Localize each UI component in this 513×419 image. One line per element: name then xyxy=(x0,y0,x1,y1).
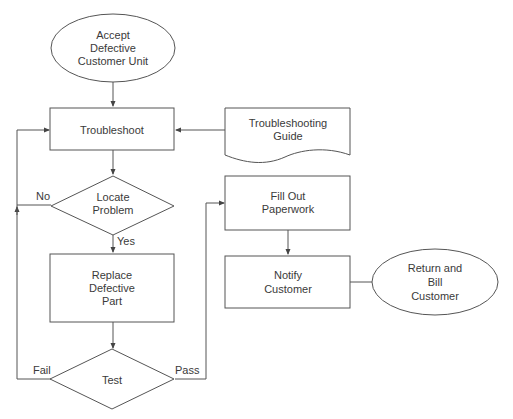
edge-label-pass: Pass xyxy=(175,364,200,376)
node-start-line-1: Accept xyxy=(96,29,130,41)
node-test-label: Test xyxy=(102,374,122,386)
node-paperwork-line-1: Fill Out xyxy=(271,190,306,202)
arrow-test-fail-to-troubleshoot xyxy=(17,130,51,379)
node-guide-line-1: Troubleshooting xyxy=(249,117,327,129)
node-notify-line-1: Notify xyxy=(274,269,303,281)
node-start-line-3: Customer Unit xyxy=(78,55,148,67)
node-troubleshoot-label: Troubleshoot xyxy=(80,124,144,136)
edge-label-fail: Fail xyxy=(33,364,51,376)
node-replace-line-2: Defective xyxy=(89,282,135,294)
node-troubleshoot: Troubleshoot xyxy=(50,108,174,150)
node-locate-line-2: Problem xyxy=(93,204,134,216)
node-replace-line-3: Part xyxy=(102,295,122,307)
node-notify: Notify Customer xyxy=(225,256,350,308)
node-end: Return and Bill Customer xyxy=(372,249,498,315)
node-end-line-1: Return and xyxy=(408,262,462,274)
node-end-line-3: Customer xyxy=(411,290,459,302)
node-test: Test xyxy=(50,349,174,409)
node-guide: Troubleshooting Guide xyxy=(225,108,350,163)
node-replace: Replace Defective Part xyxy=(50,254,174,322)
node-start: Accept Defective Customer Unit xyxy=(51,14,175,82)
flowchart-canvas: Accept Defective Customer Unit Troublesh… xyxy=(0,0,513,419)
node-end-line-2: Bill xyxy=(428,276,443,288)
edge-label-no: No xyxy=(36,190,50,202)
node-guide-line-2: Guide xyxy=(273,130,302,142)
edge-label-yes: Yes xyxy=(117,235,135,247)
node-start-line-2: Defective xyxy=(90,42,136,54)
arrow-test-pass-to-paperwork xyxy=(175,203,224,379)
node-locate: Locate Problem xyxy=(51,176,174,235)
node-replace-line-1: Replace xyxy=(92,269,132,281)
node-paperwork: Fill Out Paperwork xyxy=(225,176,350,230)
node-locate-line-1: Locate xyxy=(96,191,129,203)
node-notify-line-2: Customer xyxy=(264,283,312,295)
node-paperwork-line-2: Paperwork xyxy=(262,203,315,215)
